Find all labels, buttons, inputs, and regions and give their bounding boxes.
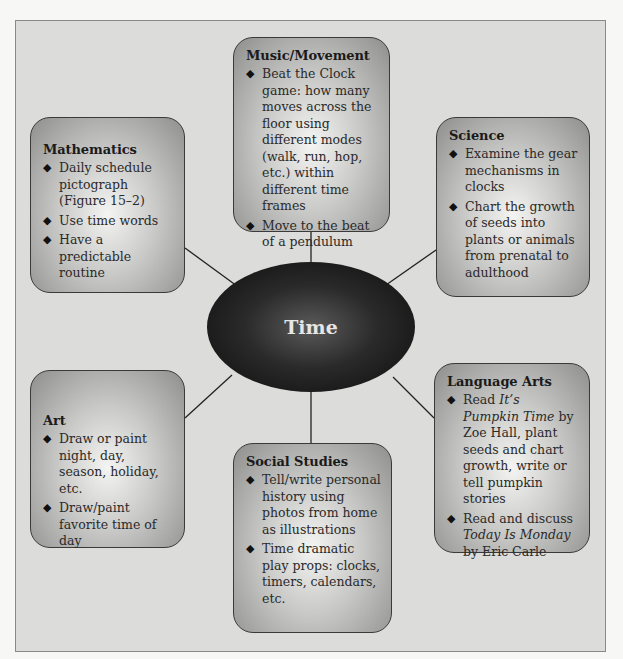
list-item: ◆Examine the gear mechanisms in clocks xyxy=(449,146,579,196)
list-item: ◆Daily schedule pictograph (Figure 15–2) xyxy=(43,160,174,210)
list-item: ◆Have a predictable routine xyxy=(43,232,174,282)
diamond-bullet-icon: ◆ xyxy=(43,213,51,230)
node-art: Art ◆Draw or paint night, day, season, h… xyxy=(30,370,185,548)
list-item: ◆Read and discuss Today Is Monday by Eri… xyxy=(447,511,579,561)
diamond-bullet-icon: ◆ xyxy=(43,500,51,517)
diamond-bullet-icon: ◆ xyxy=(449,146,457,163)
diamond-bullet-icon: ◆ xyxy=(447,392,455,409)
node-title: Art xyxy=(43,413,174,428)
node-science: Science ◆Examine the gear mechanisms in … xyxy=(436,117,590,297)
center-node-time: Time xyxy=(207,262,415,392)
list-item: ◆Move to the beat of a pendulum xyxy=(246,218,379,251)
diamond-bullet-icon: ◆ xyxy=(449,199,457,216)
node-title: Social Studies xyxy=(246,454,381,469)
list-item: ◆Tell/write personal history using photo… xyxy=(246,472,381,538)
node-music-movement: Music/Movement ◆Beat the Clock game: how… xyxy=(233,37,390,232)
list-item: ◆Read It’s Pumpkin Time by Zoe Hall, pla… xyxy=(447,392,579,508)
list-item: ◆Use time words xyxy=(43,213,174,230)
node-title: Music/Movement xyxy=(246,48,379,63)
diamond-bullet-icon: ◆ xyxy=(246,541,254,558)
diamond-bullet-icon: ◆ xyxy=(246,472,254,489)
node-title: Mathematics xyxy=(43,142,174,157)
list-item: ◆Draw/paint favorite time of day xyxy=(43,500,174,550)
diamond-bullet-icon: ◆ xyxy=(246,66,254,83)
list-item: ◆Draw or paint night, day, season, holid… xyxy=(43,431,174,497)
center-label: Time xyxy=(284,316,338,338)
diamond-bullet-icon: ◆ xyxy=(43,160,51,177)
node-title: Language Arts xyxy=(447,374,579,389)
diamond-bullet-icon: ◆ xyxy=(43,232,51,249)
list-item: ◆Time dramatic play props: clocks, timer… xyxy=(246,541,381,607)
node-language-arts: Language Arts ◆Read It’s Pumpkin Time by… xyxy=(434,363,590,553)
diamond-bullet-icon: ◆ xyxy=(447,511,455,528)
list-item: ◆Chart the growth of seeds into plants o… xyxy=(449,199,579,282)
node-mathematics: Mathematics ◆Daily schedule pictograph (… xyxy=(30,117,185,293)
node-social-studies: Social Studies ◆Tell/write personal hist… xyxy=(233,443,392,633)
list-item: ◆Beat the Clock game: how many moves acr… xyxy=(246,66,379,215)
diamond-bullet-icon: ◆ xyxy=(43,431,51,448)
diamond-bullet-icon: ◆ xyxy=(246,218,254,235)
node-title: Science xyxy=(449,128,579,143)
